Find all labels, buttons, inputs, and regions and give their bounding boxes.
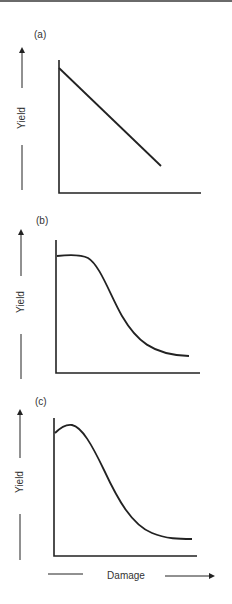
x-axis-label-group: Damage [48, 570, 212, 581]
x-axis-label: Damage [107, 570, 145, 581]
damage-yield-figure: (a) Yield (b) Yield (c) Yield Damage [0, 0, 232, 604]
panel-a-label: (a) [34, 29, 46, 40]
panel-c-label: (c) [35, 396, 47, 407]
panel-b-ylabel: Yield [15, 291, 26, 313]
panel-c-axes [54, 418, 197, 556]
panel-b-curve [57, 255, 189, 356]
panel-c-curve [55, 425, 192, 539]
panel-c: (c) Yield [14, 396, 197, 560]
panel-b-label: (b) [36, 215, 48, 226]
panel-a-axes [59, 60, 201, 193]
panel-a-curve [59, 68, 161, 166]
panel-b: (b) Yield [15, 215, 200, 379]
panel-a: (a) Yield [16, 29, 201, 193]
panel-b-axes [56, 240, 200, 373]
panel-c-ylabel: Yield [14, 471, 25, 493]
panel-a-ylabel: Yield [16, 107, 27, 129]
